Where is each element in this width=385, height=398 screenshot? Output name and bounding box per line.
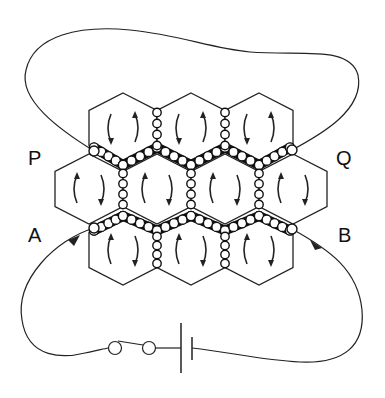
bead [161,147,170,156]
bead [203,152,212,161]
bead [221,141,229,149]
bead [221,119,229,127]
bead [187,180,195,188]
bead [187,190,195,198]
bead [187,169,195,177]
bead [237,152,246,161]
bead [144,147,153,156]
circuit-diagram [0,0,385,398]
bead [127,156,136,165]
label-Q: Q [336,148,352,168]
bead [221,250,229,258]
bead [135,152,144,161]
label-P: P [28,148,41,168]
bead [255,200,263,208]
bead [153,232,161,240]
bead [221,232,229,240]
bead [153,141,161,149]
label-A: A [28,225,41,245]
bead [119,190,127,198]
switch [109,341,182,355]
bead [118,160,127,169]
bead [153,241,161,249]
terminal-node [287,145,297,155]
switch-lever [118,341,143,345]
bead [178,156,187,165]
bead [153,259,161,267]
bead [246,156,255,165]
battery [181,323,192,373]
bead [255,190,263,198]
bead [119,200,127,208]
bead [153,250,161,258]
hex-cells [55,93,327,285]
bead [255,180,263,188]
bead [229,147,238,156]
bead [221,108,229,116]
terminal-node [89,146,99,156]
bead [153,108,161,116]
bead [221,259,229,267]
bead [187,200,195,208]
bead [119,180,127,188]
bead [119,169,127,177]
switch-terminal-right [143,342,156,355]
bead [221,241,229,249]
bead [153,130,161,138]
bead [153,119,161,127]
bead [186,160,195,169]
bead [221,130,229,138]
terminal-node [287,224,297,234]
bead [195,156,204,165]
bead [255,169,263,177]
terminal-node [89,223,99,233]
switch-terminal-left [109,342,122,355]
label-B: B [338,225,351,245]
bead [169,152,178,161]
bead [212,147,221,156]
current-out-arrow-icon [310,240,322,250]
